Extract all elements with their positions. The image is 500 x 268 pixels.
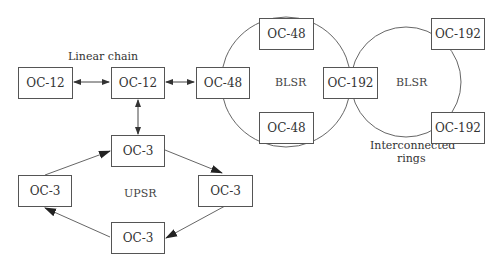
blsr-right-label: BLSR [396, 76, 427, 89]
node-oc48-blsr-bottom: OC-48 [259, 112, 314, 144]
node-oc48-blsr-left: OC-48 [196, 67, 250, 99]
linear-chain-label: Linear chain [68, 50, 138, 63]
rings-label: rings [397, 152, 426, 165]
node-oc48-blsr-top: OC-48 [259, 18, 314, 50]
node-oc3-upsr-bottom: OC-3 [111, 222, 165, 254]
diagram-connectors [0, 0, 500, 268]
blsr-left-label: BLSR [275, 76, 306, 89]
node-oc192-top: OC-192 [431, 18, 485, 50]
upsr-label: UPSR [124, 187, 157, 200]
node-oc3-upsr-right: OC-3 [198, 175, 253, 207]
node-oc12-chain-mid: OC-12 [111, 67, 165, 99]
node-oc192-shared: OC-192 [323, 67, 378, 99]
node-oc192-bottom: OC-192 [431, 112, 485, 144]
node-oc3-upsr-left: OC-3 [18, 175, 72, 207]
node-oc12-chain-left: OC-12 [18, 67, 73, 99]
node-oc3-upsr-top: OC-3 [111, 135, 165, 167]
